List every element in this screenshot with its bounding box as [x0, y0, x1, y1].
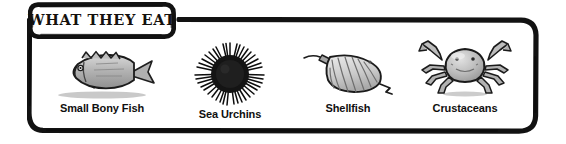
food-item-label: Shellfish	[292, 102, 404, 114]
food-item-small-bony-fish: Small Bony Fish	[36, 50, 168, 130]
food-item-label: Sea Urchins	[168, 108, 292, 120]
panel-title-text: WHAT THEY EAT	[28, 2, 176, 39]
food-item-label: Small Bony Fish	[36, 102, 168, 114]
food-item-label: Crustaceans	[404, 102, 526, 114]
food-item-shellfish: Shellfish	[292, 48, 404, 132]
food-item-crustaceans: Crustaceans	[404, 38, 526, 130]
fish-illustration	[44, 50, 160, 104]
what-they-eat-infographic: WHAT THEY EAT	[0, 0, 566, 144]
scallop-shell-illustration	[300, 48, 396, 102]
sea-urchin-illustration	[182, 42, 278, 110]
panel-title-banner: WHAT THEY EAT	[28, 2, 176, 39]
crab-illustration	[416, 38, 514, 104]
food-item-sea-urchins: Sea Urchins	[168, 42, 292, 130]
